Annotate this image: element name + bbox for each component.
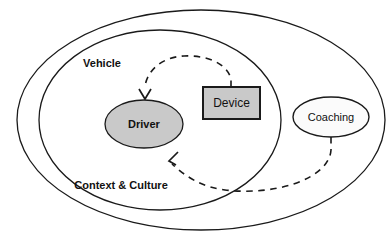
node-coaching[interactable]: Coaching — [293, 97, 369, 137]
diagram-svg: Driver Device Coaching Vehicle Context &… — [0, 0, 392, 242]
context-culture-container-label: Context & Culture — [74, 179, 168, 191]
vehicle-container-label: Vehicle — [83, 57, 121, 69]
device-label: Device — [213, 96, 250, 110]
node-driver[interactable]: Driver — [105, 100, 183, 148]
diagram-canvas: Driver Device Coaching Vehicle Context &… — [0, 0, 392, 242]
coaching-label: Coaching — [308, 111, 354, 123]
driver-label: Driver — [128, 118, 161, 130]
node-device[interactable]: Device — [203, 87, 260, 119]
